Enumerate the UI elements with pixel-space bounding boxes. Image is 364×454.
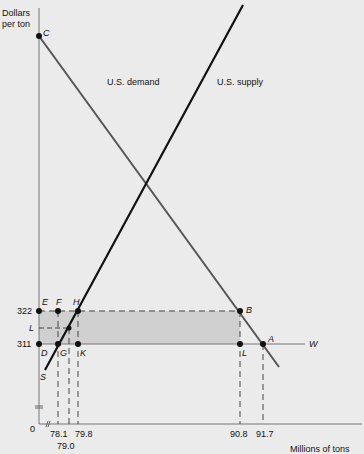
y-axis-label-line1: Dollars [2,8,31,18]
x-tick-91-7: 91.7 [256,429,274,439]
point-label-C: C [43,28,50,38]
point-label-K: K [80,348,87,358]
x-tick-90-8: 90.8 [230,429,248,439]
point-label-H: H [73,297,80,307]
point-label-D: D [41,348,48,358]
point-label-A: A [267,334,274,344]
point-label-L-left: L [29,323,34,333]
x-axis-label: Millions of tons [290,444,350,454]
y-tick-322: 322 [17,306,32,316]
x-tick-78-1: 78.1 [50,429,68,439]
point-label-E: E [42,297,49,307]
y-tick-311: 311 [17,339,31,349]
point-label-L: L [242,348,247,358]
point-label-F: F [56,297,62,307]
demand-label: U.S. demand [107,77,160,87]
supply-demand-chart: Dollars per ton C U.S. demand U.S. suppl… [0,0,364,454]
point-label-B: B [246,305,252,315]
x-tick-79-8: 79.8 [75,429,93,439]
x-tick-79-0: 79.0 [57,441,75,451]
point-label-S: S [40,372,46,382]
supply-label: U.S. supply [217,77,264,87]
origin-label: 0 [30,424,35,434]
y-axis-label-line2: per ton [2,19,30,29]
point-label-G: G [60,348,67,358]
label-W: W [309,339,319,349]
